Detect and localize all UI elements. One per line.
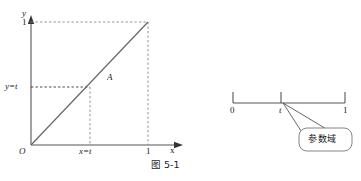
number-line-group — [233, 92, 345, 103]
callout-text-parameter-domain: 参数域 — [308, 135, 337, 144]
x-axis-label: x — [170, 146, 175, 155]
left-plot-axes — [28, 15, 183, 148]
figure-caption: 图 5-1 — [151, 160, 180, 170]
y-tick-label-one: 1 — [22, 18, 27, 27]
figure-vector-layer — [0, 0, 361, 181]
x-tick-label-t: x=t — [79, 147, 92, 156]
x-tick-label-one: 1 — [146, 147, 151, 156]
figure-container: y 1 y=t O x=t 1 A x 图 5-1 0 t 1 参数域 — [0, 0, 361, 181]
left-plot-diagonal — [31, 22, 148, 145]
origin-label: O — [19, 147, 26, 156]
y-tick-label-t: y=t — [5, 82, 18, 91]
number-line-tick-label-t: t — [279, 106, 282, 115]
number-line-tick-label-0: 0 — [230, 106, 235, 115]
region-label-a: A — [107, 73, 113, 82]
number-line-tick-label-1: 1 — [343, 106, 348, 115]
